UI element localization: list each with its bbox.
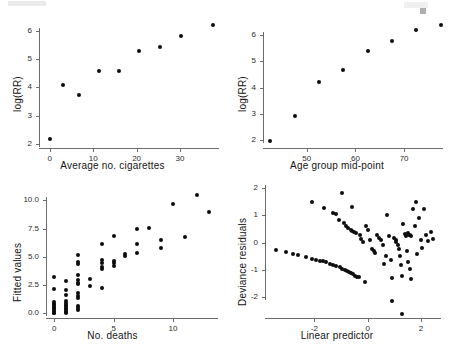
data-point bbox=[64, 293, 68, 297]
data-point bbox=[408, 267, 412, 271]
x-axis-title-linear-predictor: Linear predictor bbox=[225, 330, 449, 341]
data-point bbox=[422, 207, 426, 211]
y-axis-title-fitted-values: Fitted values bbox=[12, 243, 23, 302]
x-axis-line bbox=[263, 148, 443, 149]
data-point bbox=[382, 262, 386, 266]
y-tick bbox=[260, 88, 263, 89]
x-axis-title-age-group: Age group mid-point bbox=[225, 160, 449, 171]
data-point bbox=[414, 28, 418, 32]
y-tick bbox=[36, 87, 39, 88]
data-point bbox=[368, 238, 372, 242]
data-point bbox=[135, 242, 139, 246]
data-point bbox=[310, 200, 314, 204]
x-tick bbox=[54, 319, 55, 322]
x-axis-line bbox=[265, 318, 441, 319]
data-point bbox=[409, 234, 413, 238]
data-point bbox=[419, 238, 423, 242]
y-tick bbox=[36, 144, 39, 145]
data-point bbox=[361, 240, 365, 244]
data-point bbox=[415, 252, 419, 256]
data-point bbox=[147, 226, 151, 230]
y-tick-label: 3 bbox=[0, 112, 32, 120]
data-point bbox=[76, 253, 80, 257]
data-point bbox=[135, 251, 139, 255]
y-tick bbox=[262, 297, 265, 298]
data-point bbox=[195, 193, 199, 197]
y-axis-title-log-rr: log(RR) bbox=[12, 76, 23, 112]
y-tick bbox=[260, 140, 263, 141]
data-point bbox=[52, 311, 56, 315]
data-point bbox=[322, 206, 326, 210]
data-point bbox=[366, 49, 370, 53]
x-tick bbox=[421, 319, 422, 322]
data-point bbox=[358, 233, 362, 237]
data-point bbox=[384, 254, 388, 258]
data-point bbox=[48, 137, 52, 141]
data-point bbox=[159, 238, 163, 242]
y-tick bbox=[36, 59, 39, 60]
x-tick bbox=[180, 149, 181, 152]
data-point bbox=[77, 93, 81, 97]
data-point bbox=[123, 254, 127, 258]
y-axis-line bbox=[39, 28, 40, 147]
y-axis-title-log-rr-age: log(RR) bbox=[237, 76, 248, 112]
data-point bbox=[409, 277, 413, 281]
data-point bbox=[381, 243, 385, 247]
y-axis-title-deviance-residuals: Deviance residuals bbox=[237, 218, 248, 306]
data-point bbox=[357, 275, 361, 279]
data-point bbox=[183, 235, 187, 239]
data-point bbox=[405, 249, 409, 253]
data-point bbox=[52, 275, 56, 279]
data-point bbox=[439, 23, 443, 27]
y-tick bbox=[262, 215, 265, 216]
x-tick bbox=[114, 319, 115, 322]
data-point bbox=[64, 288, 68, 292]
data-point bbox=[390, 299, 394, 303]
y-tick-label: 2 bbox=[0, 140, 32, 148]
y-tick-label: 5 bbox=[222, 57, 256, 65]
plot-area-residuals-vs-linear-predictor: -2-1012-202 bbox=[265, 188, 441, 318]
y-tick-label: 0.0 bbox=[5, 309, 39, 317]
data-point bbox=[379, 238, 383, 242]
data-point bbox=[389, 258, 393, 262]
data-point bbox=[137, 49, 141, 53]
x-tick bbox=[307, 149, 308, 152]
data-point bbox=[207, 210, 211, 214]
x-axis-title-cigarettes: Average no. cigarettes bbox=[0, 160, 225, 171]
y-axis-line bbox=[263, 32, 264, 143]
x-axis-title-no-deaths: No. deaths bbox=[0, 330, 225, 341]
data-point bbox=[293, 114, 297, 118]
panel-log-rr-vs-age: 23456506070 Age group mid-point log(RR) bbox=[225, 0, 449, 180]
data-point bbox=[337, 218, 341, 222]
data-point bbox=[411, 207, 415, 211]
data-point bbox=[117, 69, 121, 73]
data-point bbox=[429, 230, 433, 234]
data-point bbox=[76, 273, 80, 277]
data-point bbox=[390, 39, 394, 43]
data-point bbox=[52, 287, 56, 291]
data-point bbox=[284, 250, 288, 254]
data-point bbox=[334, 212, 338, 216]
plot-area-log-rr-vs-age: 23456506070 bbox=[263, 18, 443, 148]
data-point bbox=[291, 252, 295, 256]
data-point bbox=[158, 45, 162, 49]
data-point bbox=[88, 277, 92, 281]
data-point bbox=[350, 205, 354, 209]
y-axis-line bbox=[265, 185, 266, 300]
data-point bbox=[406, 260, 410, 264]
panel-residuals-vs-linear-predictor: -2-1012-202 Linear predictor Deviance re… bbox=[225, 180, 449, 359]
data-point bbox=[100, 267, 104, 271]
data-point bbox=[100, 286, 104, 290]
y-tick bbox=[43, 257, 46, 258]
data-point bbox=[400, 312, 404, 316]
data-point bbox=[274, 248, 278, 252]
x-tick bbox=[355, 149, 356, 152]
data-point bbox=[399, 263, 403, 267]
panel-fitted-vs-deaths: 0.02.55.07.510.00510 No. deaths Fitted v… bbox=[0, 180, 225, 359]
data-point bbox=[304, 255, 308, 259]
data-point bbox=[414, 200, 418, 204]
y-tick-label: 6 bbox=[0, 27, 32, 35]
x-tick bbox=[173, 319, 174, 322]
data-point bbox=[341, 68, 345, 72]
data-point bbox=[179, 34, 183, 38]
